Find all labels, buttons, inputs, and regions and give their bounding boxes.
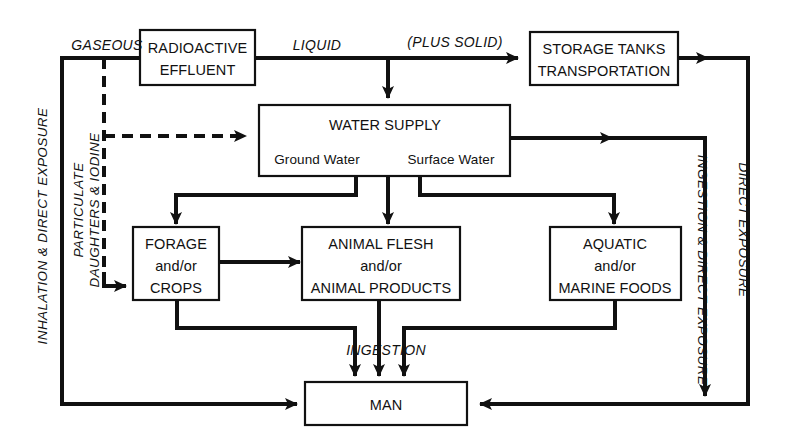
node-water-supply-surface-water: Surface Water (407, 152, 494, 167)
label-gaseous: GASEOUS (71, 37, 143, 53)
node-animal-flesh-line-3: ANIMAL PRODUCTS (311, 280, 451, 296)
label-plus-solid: (PLUS SOLID) (407, 34, 502, 50)
label-particulate: PARTICULATE (71, 162, 86, 258)
node-animal-flesh[interactable]: ANIMAL FLESH and/or ANIMAL PRODUCTS (302, 227, 460, 300)
node-forage-crops-line-3: CROPS (150, 280, 202, 296)
node-aquatic-foods-line-3: MARINE FOODS (558, 280, 671, 296)
node-radioactive-effluent-line-2: EFFLUENT (160, 62, 236, 78)
node-radioactive-effluent[interactable]: RADIOACTIVE EFFLUENT (140, 30, 255, 85)
node-storage-tanks-line-2: TRANSPORTATION (538, 63, 671, 79)
flow-diagram-canvas: RADIOACTIVE EFFLUENT STORAGE TANKS TRANS… (0, 0, 804, 446)
label-inhalation-direct-exposure: INHALATION & DIRECT EXPOSURE (35, 107, 50, 344)
edge-forage-to-man (177, 300, 355, 376)
label-daughters-iodine: DAUGHTERS & IODINE (87, 132, 102, 288)
node-water-supply[interactable]: WATER SUPPLY Ground Water Surface Water (259, 105, 510, 176)
label-direct-exposure: DIRECT EXPOSURE (736, 162, 751, 298)
label-ingestion-direct-exposure: INGESTION & DIRECT EXPOSURE (695, 155, 710, 386)
node-forage-crops-line-1: FORAGE (145, 236, 207, 252)
node-aquatic-foods-line-1: AQUATIC (583, 236, 647, 252)
node-animal-flesh-line-1: ANIMAL FLESH (328, 236, 433, 252)
node-storage-tanks[interactable]: STORAGE TANKS TRANSPORTATION (530, 32, 678, 85)
node-water-supply-ground-water: Ground Water (274, 152, 360, 167)
edge-water-supply-to-forage (176, 176, 356, 224)
node-man-label: MAN (370, 397, 403, 413)
edge-water-supply-to-aquatic (420, 176, 614, 224)
node-radioactive-effluent-line-1: RADIOACTIVE (148, 40, 248, 56)
node-aquatic-foods-line-2: and/or (594, 258, 636, 274)
node-forage-crops-line-2: and/or (155, 258, 197, 274)
node-animal-flesh-line-2: and/or (360, 258, 402, 274)
node-forage-crops[interactable]: FORAGE and/or CROPS (133, 227, 219, 300)
node-aquatic-foods[interactable]: AQUATIC and/or MARINE FOODS (550, 227, 681, 300)
pathway-diagram: RADIOACTIVE EFFLUENT STORAGE TANKS TRANS… (0, 0, 804, 446)
label-liquid: LIQUID (293, 37, 341, 53)
edge-liquid-to-water-supply (255, 58, 388, 98)
node-storage-tanks-line-1: STORAGE TANKS (543, 41, 666, 57)
label-ingestion: INGESTION (346, 342, 426, 358)
edge-aquatic-to-man (404, 300, 615, 376)
node-water-supply-title: WATER SUPPLY (329, 117, 441, 133)
node-man[interactable]: MAN (305, 382, 467, 425)
